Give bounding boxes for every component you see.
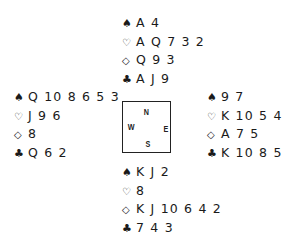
club-icon: ♣	[122, 71, 136, 89]
west-clubs: ♣Q 6 2	[14, 144, 68, 162]
west-spades: ♠Q 10 8 6 5 3	[14, 88, 120, 106]
west-diamonds: ◇8	[14, 125, 37, 143]
diamond-icon: ◇	[122, 52, 136, 70]
south-diamonds: ◇K J 10 6 4 2	[122, 200, 222, 218]
north-spades: ♠A 4	[122, 14, 160, 32]
club-icon: ♣	[14, 145, 28, 163]
spade-icon: ♠	[207, 89, 221, 107]
compass-north: N	[144, 107, 149, 117]
heart-icon: ♡	[207, 108, 221, 126]
club-icon: ♣	[207, 145, 221, 163]
heart-icon: ♡	[122, 34, 136, 52]
spade-icon: ♠	[122, 164, 136, 182]
south-spades: ♠K J 2	[122, 163, 170, 181]
west-hearts: ♡J 9 6	[14, 107, 62, 125]
compass-west: W	[128, 122, 135, 132]
diamond-icon: ◇	[14, 126, 28, 144]
spade-icon: ♠	[14, 89, 28, 107]
compass-east: E	[164, 124, 169, 134]
diamond-icon: ◇	[207, 126, 221, 144]
east-spades: ♠9 7	[207, 88, 244, 106]
east-diamonds: ◇A 7 5	[207, 125, 259, 143]
north-hearts: ♡A Q 7 3 2	[122, 33, 205, 51]
club-icon: ♣	[122, 220, 136, 238]
south-clubs: ♣7 4 3	[122, 219, 174, 237]
spade-icon: ♠	[122, 15, 136, 33]
compass-box: N W E S	[122, 101, 171, 153]
south-hearts: ♡8	[122, 182, 145, 200]
north-diamonds: ◇Q 9 3	[122, 51, 176, 69]
diamond-icon: ◇	[122, 201, 136, 219]
east-clubs: ♣K 10 8 5	[207, 144, 283, 162]
compass-south: S	[146, 139, 151, 149]
heart-icon: ♡	[14, 108, 28, 126]
heart-icon: ♡	[122, 183, 136, 201]
north-clubs: ♣A J 9	[122, 70, 170, 88]
east-hearts: ♡K 10 5 4	[207, 107, 283, 125]
